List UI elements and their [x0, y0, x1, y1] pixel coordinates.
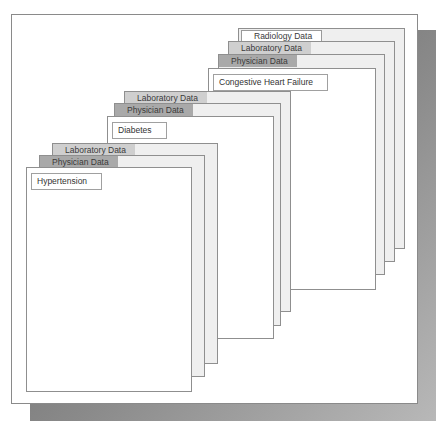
- chf-physician-tab: Physician Data: [219, 55, 297, 67]
- diabetes-condition-label: Diabetes: [112, 122, 167, 139]
- chf-laboratory-tab: Laboratory Data: [229, 42, 311, 54]
- diabetes-physician-tab: Physician Data: [115, 104, 193, 116]
- chf-condition-label: Congestive Heart Failure: [213, 74, 328, 91]
- hypertension-front-page: Hypertension: [26, 167, 192, 392]
- hypertension-condition-label: Hypertension: [31, 173, 102, 190]
